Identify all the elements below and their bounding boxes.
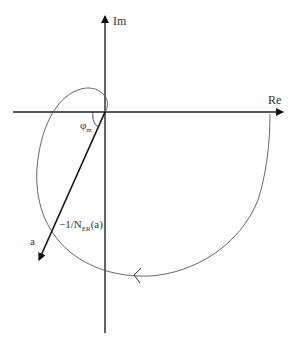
describing-function-label: −1/NER(a) — [59, 218, 103, 233]
amplitude-arrow — [39, 112, 105, 260]
phase-margin-arc — [93, 112, 99, 127]
phase-margin-label: φm — [80, 119, 92, 134]
amplitude-label: a — [30, 235, 35, 247]
real-axis-label: Re — [268, 93, 281, 107]
imaginary-axis-label: Im — [113, 14, 127, 28]
nyquist-curve — [37, 88, 270, 276]
nyquist-diagram: Im Re φm −1/NER(a) a — [0, 0, 296, 349]
